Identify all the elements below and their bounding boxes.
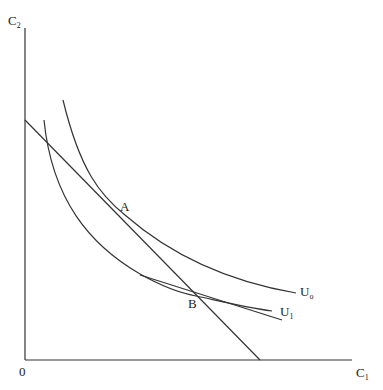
y-axis-label: C2 <box>8 13 21 30</box>
x-axis-label: C1 <box>356 365 369 382</box>
point-b-label: B <box>188 296 197 311</box>
origin-label: 0 <box>19 364 26 379</box>
u0-label: Uo <box>300 284 313 301</box>
u1-label: U1 <box>280 304 293 321</box>
indifference-curve-u0 <box>63 100 296 293</box>
indifference-diagram: C2 C1 0 A B Uo U1 <box>0 0 383 390</box>
point-a-label: A <box>120 199 130 214</box>
tangent-line-at-b <box>140 275 282 320</box>
budget-line <box>25 120 260 360</box>
